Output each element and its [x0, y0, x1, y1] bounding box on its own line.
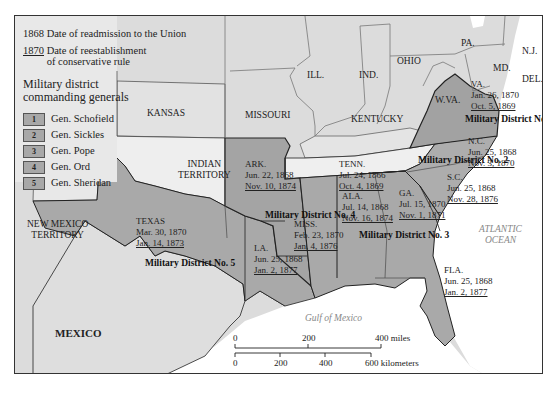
district-swatch: 1 [23, 113, 45, 126]
scale-miles-400: 400 miles [375, 333, 410, 343]
state-florida: FLA.Jun. 25, 1868Jan. 2, 1877 [444, 265, 493, 298]
legend-readmission-label: Date of readmission to the Union [47, 28, 187, 39]
label-kentucky: KENTUCKY [351, 114, 403, 125]
state-virginia: VA.Jan. 26, 1870Oct. 5, 1869 [471, 79, 519, 112]
label-indiana: IND. [359, 70, 378, 81]
state-south-carolina: S.C.Jun. 25, 1868Nov. 28, 1876 [447, 172, 498, 205]
legend-conservative-label-2: of conservative rule [47, 56, 147, 67]
label-new-mexico-territory: NEW MEXICO TERRITORY [27, 219, 88, 241]
label-military-district-3: Military District No. 3 [359, 230, 449, 240]
scale-miles-200: 200 [302, 333, 316, 343]
label-gulf-of-mexico: Gulf of Mexico [305, 313, 362, 324]
legend-general-1: 1Gen. Schofield [23, 113, 114, 126]
legend-districts-title: Military district commanding generals [23, 78, 129, 104]
map-frame: 1868 Date of readmission to the Union 18… [14, 15, 543, 374]
legend-general-4: 4Gen. Ord [23, 161, 90, 174]
scale-km-200: 200 [274, 358, 288, 368]
state-georgia: GA.Jul. 15, 1870Nov. 1, 1871 [399, 188, 446, 221]
label-military-district-4: Military District No. 4 [265, 210, 355, 220]
label-west-virginia: W.VA. [435, 95, 460, 106]
legend-sample-year: 1868 [23, 28, 44, 39]
legend-sample-year-underlined: 1870 [23, 45, 44, 56]
label-new-jersey: N.J. [522, 46, 537, 57]
legend-conservative: 1870 Date of reestablishment of conserva… [23, 45, 146, 67]
label-maryland: MD. [493, 63, 511, 74]
district-swatch: 4 [23, 161, 45, 174]
label-kansas: KANSAS [147, 108, 185, 119]
label-military-district-5: Military District No. 5 [145, 258, 235, 268]
district-swatch: 3 [23, 145, 45, 158]
label-atlantic-ocean: ATLANTIC OCEAN [479, 224, 522, 246]
state-tennessee: TENN.Jul. 24, 1866Oct. 4, 1869 [339, 159, 386, 192]
legend-general-3: 3Gen. Pope [23, 145, 95, 158]
label-indian-territory: INDIAN TERRITORY [178, 159, 231, 181]
scale-km-600: 600 kilometers [365, 358, 419, 368]
scale-miles-0: 0 [233, 333, 238, 343]
label-mexico: MEXICO [55, 328, 101, 339]
scale-km-400: 400 [319, 358, 333, 368]
label-pennsylvania: PA. [461, 38, 475, 49]
state-louisiana: LA.Jun. 25, 1868Jan. 2, 1877 [254, 243, 303, 276]
label-ohio: OHIO [397, 56, 421, 67]
state-arkansas: ARK.Jun. 22, 1868Nov. 10, 1874 [245, 159, 296, 192]
scale-km-0: 0 [233, 358, 238, 368]
label-military-district-2: Military District No. 2 [418, 155, 508, 165]
legend-general-2: 2Gen. Sickles [23, 129, 104, 142]
legend-readmission: 1868 Date of readmission to the Union [23, 28, 186, 39]
state-texas: TEXASMar. 30, 1870Jan. 14, 1873 [136, 216, 187, 249]
label-military-district-1: Military District No. 1 [465, 114, 543, 124]
district-swatch: 5 [23, 177, 45, 190]
legend-general-5: 5Gen. Sheridan [23, 177, 111, 190]
legend-conservative-label: Date of reestablishment [47, 45, 147, 56]
label-missouri: MISSOURI [245, 110, 290, 121]
label-illinois: ILL. [307, 70, 324, 81]
district-swatch: 2 [23, 129, 45, 142]
label-delaware: DEL. [522, 74, 543, 85]
